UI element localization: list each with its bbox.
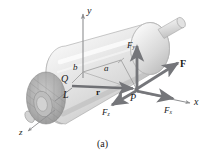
- vector-Fx-label: Fx: [164, 106, 172, 116]
- vector-F-label: F: [180, 59, 186, 69]
- axis-z-label: z: [19, 128, 23, 137]
- dimension-a-label: a: [104, 64, 109, 73]
- Fx-subscript: x: [170, 109, 172, 115]
- Fz-subscript: z: [108, 111, 110, 117]
- vector-Fx: [137, 91, 173, 99]
- figure-caption: (a): [97, 138, 108, 149]
- right-shaft: [158, 16, 187, 39]
- dimension-b-label: b: [73, 63, 78, 72]
- point-P-label: P: [130, 93, 136, 103]
- axis-y-label: y: [87, 6, 91, 16]
- axis-x-label: x: [194, 97, 198, 107]
- vector-r-label: r: [96, 88, 100, 97]
- vector-Fy-label: Fy: [127, 41, 135, 51]
- point-Q-label: Q: [61, 74, 68, 84]
- vector-Fz-label: Fz: [102, 108, 110, 118]
- Fy-subscript: y: [133, 44, 135, 50]
- mechanics-figure: [0, 0, 209, 159]
- point-L-label: L: [63, 90, 69, 100]
